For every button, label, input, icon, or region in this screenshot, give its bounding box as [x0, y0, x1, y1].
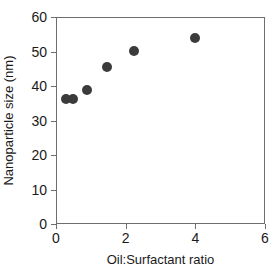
x-axis-tick-label: 6	[261, 231, 269, 245]
y-axis-tick-label: 50	[31, 45, 47, 59]
y-axis-tick-label: 10	[31, 183, 47, 197]
x-axis-tick-label: 2	[122, 231, 130, 245]
data-point-marker	[102, 62, 112, 72]
y-axis-tick	[51, 86, 56, 87]
y-axis-tick-label: 40	[31, 79, 47, 93]
y-axis-tick-label: 60	[31, 10, 47, 24]
data-point-marker	[68, 94, 78, 104]
plot-area: 01020304050600246	[56, 17, 265, 224]
y-axis-tick	[51, 52, 56, 53]
y-axis-tick-label: 30	[31, 114, 47, 128]
x-axis-tick	[195, 224, 196, 229]
data-point-marker	[190, 33, 200, 43]
y-axis-tick	[51, 155, 56, 156]
x-axis-tick	[265, 224, 266, 229]
y-axis-tick	[51, 190, 56, 191]
x-axis-tick-label: 4	[191, 231, 199, 245]
scatter-chart: 01020304050600246 Oil:Surfactant ratio N…	[0, 0, 278, 276]
x-axis-tick	[126, 224, 127, 229]
x-axis-tick	[56, 224, 57, 229]
x-axis-title: Oil:Surfactant ratio	[56, 252, 265, 267]
y-axis-tick-label: 0	[39, 217, 47, 231]
y-axis-tick	[51, 17, 56, 18]
data-point-marker	[82, 85, 92, 95]
data-point-marker	[129, 46, 139, 56]
y-axis-tick	[51, 121, 56, 122]
y-axis-title: Nanoparticle size (nm)	[0, 17, 18, 224]
x-axis-tick-label: 0	[52, 231, 60, 245]
y-axis-tick-label: 20	[31, 148, 47, 162]
